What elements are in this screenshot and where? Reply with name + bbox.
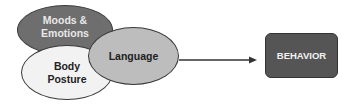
body-label-line2: Posture bbox=[47, 73, 86, 86]
body-label-line1: Body bbox=[47, 60, 86, 73]
moods-label-line2: Emotions bbox=[41, 27, 89, 40]
language-label: Language bbox=[109, 50, 159, 63]
language-node: Language bbox=[88, 27, 179, 85]
arrow-icon bbox=[179, 55, 257, 65]
behavior-node: BEHAVIOR bbox=[265, 33, 338, 78]
behavior-label: BEHAVIOR bbox=[277, 50, 326, 61]
moods-label-line1: Moods & bbox=[41, 14, 89, 27]
